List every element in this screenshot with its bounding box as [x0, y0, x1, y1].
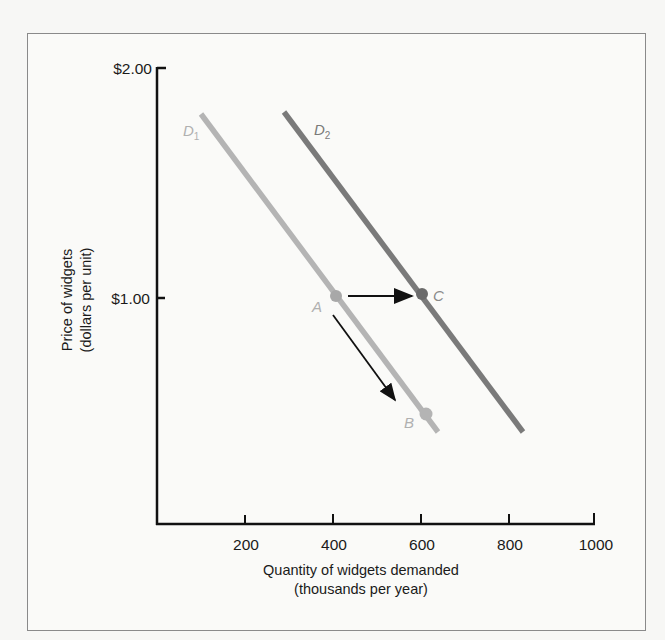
- y-axis-title: Price of widgets: [59, 249, 75, 351]
- d1-label: D1: [183, 122, 200, 142]
- x-axis-subtitle: (thousands per year): [294, 581, 428, 597]
- y-tick-label-1: $1.00: [111, 290, 150, 307]
- x-tick-label-1000: 1000: [579, 536, 614, 553]
- x-axis-title: Quantity of widgets demanded: [263, 562, 459, 578]
- x-tick-label-400: 400: [321, 536, 347, 553]
- x-tick-label-200: 200: [233, 536, 259, 553]
- point-a-label: A: [311, 298, 322, 315]
- point-a-marker: [330, 290, 342, 302]
- point-c-marker: [416, 288, 428, 300]
- point-b-marker: [420, 408, 433, 421]
- x-tick-label-600: 600: [409, 536, 435, 553]
- point-b-label: B: [404, 414, 414, 431]
- y-tick-label-2: $2.00: [113, 60, 152, 77]
- y-axis-subtitle: (dollars per unit): [78, 248, 94, 353]
- demand-chart: $2.00 $1.00 200 400 600 800 1000 Quantit…: [0, 0, 665, 640]
- x-tick-label-800: 800: [497, 536, 523, 553]
- d2-label: D2: [314, 121, 331, 141]
- point-c-label: C: [433, 287, 444, 304]
